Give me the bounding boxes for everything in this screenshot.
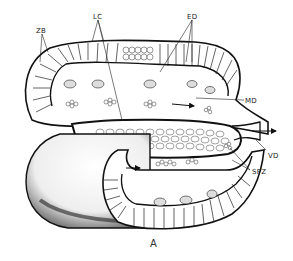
label-md: MD [245,97,257,105]
label-zb: ZB [36,27,46,35]
gonad-illustration [0,0,293,261]
label-spz: SPZ [252,168,266,176]
label-lc: LC [93,13,102,21]
diagram-canvas [0,0,293,261]
label-vd: VD [268,152,279,160]
figure-title: A [150,238,157,249]
label-ed: ED [187,13,197,21]
